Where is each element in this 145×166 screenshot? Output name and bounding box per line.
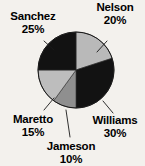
pie-label-jameson-percent: 10% — [38, 153, 104, 166]
pie-label-jameson: Jameson 10% — [38, 140, 104, 165]
pie-label-maretto-percent: 15% — [0, 126, 66, 139]
leader-line-jameson — [66, 110, 70, 137]
pie-label-williams-name: Williams — [93, 114, 138, 126]
pie-label-sanchez-percent: 25% — [0, 23, 66, 36]
pie-chart: Nelson 20% Sanchez 25% Williams 30% Jame… — [0, 0, 145, 166]
pie-label-sanchez-name: Sanchez — [10, 10, 55, 22]
pie-label-maretto: Maretto 15% — [0, 113, 66, 138]
pie-label-sanchez: Sanchez 25% — [0, 10, 66, 35]
pie-label-nelson-name: Nelson — [96, 1, 133, 13]
pie-label-nelson: Nelson 20% — [86, 1, 144, 26]
leader-line-maretto — [44, 98, 54, 110]
leader-line-williams — [103, 101, 113, 113]
pie-label-jameson-name: Jameson — [47, 140, 95, 152]
pie-label-williams-percent: 30% — [86, 127, 144, 140]
pie-label-nelson-percent: 20% — [86, 14, 144, 27]
pie-label-williams: Williams 30% — [86, 114, 144, 139]
pie-slice-sanchez — [38, 32, 76, 70]
pie-label-maretto-name: Maretto — [13, 113, 53, 125]
